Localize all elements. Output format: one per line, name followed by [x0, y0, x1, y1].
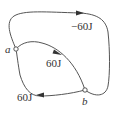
point-b: [83, 88, 87, 92]
upper-inner-path-label: 60J: [46, 57, 62, 69]
point-a: [14, 47, 18, 51]
arrow-icon: [76, 11, 84, 16]
lower-inner-path-label: 60J: [17, 91, 33, 103]
arrow-icon: [36, 93, 44, 98]
point-a-label: a: [5, 43, 11, 55]
outer-path-label: −60J: [71, 20, 93, 32]
point-b-label: b: [82, 95, 88, 107]
process-diagram: a b −60J 60J 60J: [0, 0, 119, 113]
